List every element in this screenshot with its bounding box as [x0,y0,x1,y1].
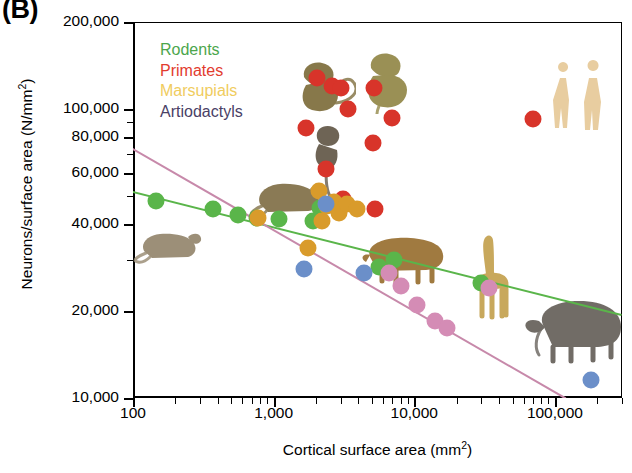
data-point-primates-6 [384,110,401,127]
y-tick-100000 [124,109,133,111]
x-tick-label-100000: 100,000 [527,404,583,422]
x-minor-tick-2000 [316,398,317,404]
x-tick-label-10000: 10,000 [391,404,438,422]
legend-item-marsupials[interactable]: Marsupials [160,81,243,102]
x-minor-tick-300 [200,398,201,404]
x-minor-tick-90000 [548,398,549,404]
x-minor-tick-40000 [499,398,500,404]
x-minor-tick-800 [260,398,261,404]
mouse-illustration [133,217,208,265]
legend-item-primates[interactable]: Primates [160,61,243,82]
x-minor-tick-700 [252,398,253,404]
data-point-artiodactyls-0 [317,195,334,212]
data-point-artiodactyls-2 [356,265,373,282]
legend-item-artiodactyls[interactable]: Artiodactyls [160,102,243,123]
data-point-marsupials-1 [299,240,316,257]
chart-figure: (B) Neurons/surface area (N/mm2) Cortica… [0,0,632,473]
x-minor-tick-4000 [358,398,359,404]
data-point-rodents-2 [230,206,247,223]
x-tick-label-100: 100 [120,404,146,422]
data-point-artiodactyls-trend-points-5 [481,280,498,297]
data-point-primates-0 [298,119,315,136]
y-axis-title-text: Neurons/surface area (N/mm [18,90,35,290]
y-axis-title-tail: ) [18,79,35,84]
y-tick-label-40000: 40,000 [0,214,119,232]
y-tick-80000 [124,137,133,139]
data-point-artiodactyls-trend-points-4 [438,319,455,336]
x-axis-title: Cortical surface area (mm2) [133,441,622,459]
data-point-primates-9 [367,201,384,218]
y-tick-label-100000: 100,000 [0,99,119,117]
data-point-marsupials-7 [348,201,365,218]
x-minor-tick-3000 [341,398,342,404]
x-minor-tick-200 [175,398,176,404]
human-illustration [547,58,613,136]
x-minor-tick-30000 [481,398,482,404]
y-tick-label-60000: 60,000 [0,163,119,181]
x-minor-tick-8000 [401,398,402,404]
y-axis-title: Neurons/surface area (N/mm2) [18,34,36,334]
x-minor-tick-900 [267,398,268,404]
data-point-artiodactyls-1 [296,260,313,277]
x-minor-tick-6000 [383,398,384,404]
x-tick-label-1000: 1,000 [254,404,293,422]
data-point-primates-11 [525,111,542,128]
legend-item-rodents[interactable]: Rodents [160,40,243,61]
y-tick-label-80000: 80,000 [0,127,119,145]
x-minor-tick-9000 [408,398,409,404]
y-tick-10000 [124,398,133,400]
data-point-rodents-1 [204,201,221,218]
data-point-rodents-0 [147,193,164,210]
x-minor-tick-70000 [533,398,534,404]
x-minor-tick-7000 [392,398,393,404]
x-minor-tick-80000 [541,398,542,404]
y-tick-200000 [124,22,133,24]
x-minor-tick-200000 [597,398,598,404]
y-tick-60000 [124,173,133,175]
x-minor-tick-20000 [457,398,458,404]
x-minor-tick-50000 [513,398,514,404]
y-axis-title-superscript: 2 [16,84,28,90]
data-point-primates-10 [365,135,382,152]
x-minor-tick-5000 [372,398,373,404]
y-tick-20000 [124,311,133,313]
legend: RodentsPrimatesMarsupialsArtiodactyls [160,40,243,122]
x-minor-tick-400 [218,398,219,404]
data-point-artiodactyls-trend-points-2 [409,296,426,313]
data-point-primates-5 [366,80,383,97]
x-minor-tick-500 [231,398,232,404]
data-point-marsupials-8 [313,212,330,229]
x-minor-tick-60000 [524,398,525,404]
x-minor-tick-300000 [622,398,623,404]
data-point-artiodactyls-trend-points-1 [392,277,409,294]
y-tick-40000 [124,224,133,226]
data-point-rodents-4 [271,211,288,228]
data-point-primates-7 [317,160,334,177]
macaque-illustration [345,48,421,114]
y-tick-label-10000: 10,000 [0,388,119,406]
y-tick-label-200000: 200,000 [0,12,119,30]
x-axis-title-tail: ) [467,441,472,458]
x-minor-tick-600 [242,398,243,404]
data-point-marsupials-0 [250,209,267,226]
data-point-artiodactyls-3 [582,372,599,389]
y-tick-label-20000: 20,000 [0,301,119,319]
x-axis-title-text: Cortical surface area (mm [283,441,461,458]
data-point-primates-3 [332,80,349,97]
data-point-primates-4 [340,100,357,117]
